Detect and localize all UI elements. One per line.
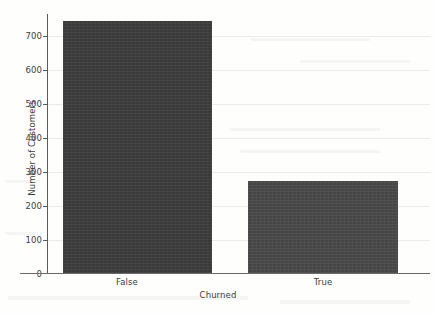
plot-area	[48, 14, 430, 273]
y-tick-label: 700	[8, 31, 42, 41]
bar-false[interactable]	[63, 21, 212, 273]
x-axis-spine	[20, 273, 430, 274]
bar-chart-figure: 700 600 500 400 300 200 100 0 False True	[0, 0, 436, 314]
y-axis-label: Number of Customers	[27, 68, 37, 228]
x-axis-label: Churned	[0, 290, 436, 300]
bar-texture	[248, 181, 398, 273]
bar-true[interactable]	[248, 181, 398, 273]
bar-texture	[63, 21, 212, 273]
x-tick-label-false: False	[97, 277, 157, 287]
y-tick-label: 100	[8, 235, 42, 245]
x-tick-label-true: True	[293, 277, 353, 287]
y-tick-label: 0	[8, 269, 42, 279]
page-showthrough-artifact	[280, 300, 410, 304]
